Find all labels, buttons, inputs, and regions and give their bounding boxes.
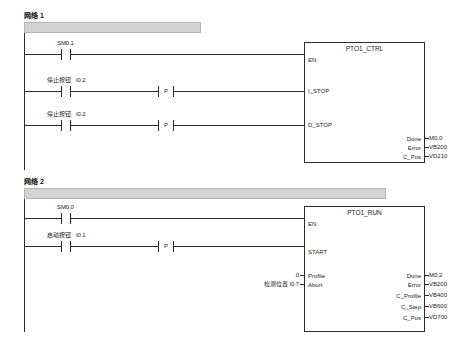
pto1-run-c-profile-operand[interactable]: VB400 xyxy=(429,292,447,299)
rung-1-3-wire-mid xyxy=(71,125,158,126)
rung-2-2-wire-right xyxy=(174,246,304,247)
pto1-run-block-title: PTO1_RUN xyxy=(305,209,424,217)
rung-2-2-wire-mid xyxy=(71,246,158,247)
pto1-ctrl-c-pos-operand[interactable]: VD210 xyxy=(429,153,447,160)
pto1-ctrl-pin-c-pos: C_Pos xyxy=(403,154,421,161)
pto1-run-pin-start: START xyxy=(308,249,327,256)
pto1-ctrl-block-title: PTO1_CTRL xyxy=(305,45,424,53)
pto1-run-profile-operand[interactable]: 0 xyxy=(270,272,299,279)
pto1-run-pin-profile: Profile xyxy=(308,273,325,280)
pto1-run-pin-abort: Abort xyxy=(308,282,322,289)
rung-1-3-contact-symbol: 停止按钮 xyxy=(47,111,71,118)
rung-1-2-contact[interactable] xyxy=(61,86,71,97)
rung-2-2-contact[interactable] xyxy=(61,241,71,252)
rung-2-2-contact-symbol: 启动按钮 xyxy=(47,232,71,239)
lad-editor-canvas: 网络 1 SM0.1 停止按钮 I0.2 P 停止按钮 I0.2 P PTO1_… xyxy=(0,0,453,339)
pto1-run-profile-stub xyxy=(300,275,304,276)
rung-1-3-wire-right xyxy=(174,125,304,126)
rung-2-1-contact-address: SM0.0 xyxy=(57,204,74,211)
rung-1-3-wire-left xyxy=(24,125,61,126)
network-1-title: 网络 1 xyxy=(24,12,44,20)
pto1-run-pin-en: EN xyxy=(308,221,316,228)
rung-1-2-wire-mid xyxy=(71,91,158,92)
pto1-run-pin-c-pos: C_Pos xyxy=(403,315,421,322)
pto1-run-pin-error: Error xyxy=(408,282,421,289)
rung-1-1-contact[interactable] xyxy=(61,49,71,60)
pto1-ctrl-pin-done: Done xyxy=(407,136,421,143)
rung-2-2-positive-edge-label: P xyxy=(158,242,174,251)
rung-2-2-wire-left xyxy=(24,246,61,247)
pto1-run-c-step-operand[interactable]: VB600 xyxy=(429,303,447,310)
rung-1-3-positive-edge-contact[interactable]: P xyxy=(158,120,174,131)
rung-2-2-positive-edge-contact[interactable]: P xyxy=(158,241,174,252)
rung-1-2-positive-edge-label: P xyxy=(158,87,174,96)
network-2-title: 网络 2 xyxy=(24,178,44,186)
pto1-ctrl-error-operand[interactable]: VB200 xyxy=(429,144,447,151)
rung-1-3-contact[interactable] xyxy=(61,120,71,131)
network-2-comment-bar[interactable] xyxy=(24,188,386,199)
pto1-ctrl-pin-en: EN xyxy=(308,57,316,64)
pto1-run-pin-c-profile: C_Profile xyxy=(396,293,421,300)
pto1-ctrl-pin-error: Error xyxy=(408,145,421,152)
rung-1-2-wire-right xyxy=(174,91,304,92)
rung-1-2-contact-symbol: 停止按钮 xyxy=(47,77,71,84)
pto1-run-error-operand[interactable]: VB200 xyxy=(429,281,447,288)
rung-1-3-positive-edge-label: P xyxy=(158,121,174,130)
pto1-run-block[interactable]: PTO1_RUN EN START Profile Abort Done Err… xyxy=(304,206,425,332)
pto1-run-c-pos-operand[interactable]: VD700 xyxy=(429,314,447,321)
pto1-run-abort-operand[interactable]: 检测位置 I0.7 xyxy=(240,281,299,288)
rung-1-1-wire-left xyxy=(24,54,61,55)
rung-2-2-contact-address: I0.1 xyxy=(76,232,86,239)
pto1-run-pin-c-step: C_Step xyxy=(401,304,421,311)
rung-1-2-positive-edge-contact[interactable]: P xyxy=(158,86,174,97)
rung-1-2-wire-left xyxy=(24,91,61,92)
pto1-ctrl-pin-i-stop: I_STOP xyxy=(308,88,329,95)
rung-2-1-contact[interactable] xyxy=(61,213,71,224)
pto1-run-abort-stub xyxy=(300,284,304,285)
pto1-ctrl-pin-d-stop: D_STOP xyxy=(308,122,332,129)
rung-1-1-wire-right xyxy=(71,54,304,55)
rung-1-2-contact-address: I0.2 xyxy=(76,77,86,84)
pto1-run-done-operand[interactable]: M0.2 xyxy=(429,272,442,279)
network-1-comment-bar[interactable] xyxy=(24,22,201,33)
rung-1-3-contact-address: I0.2 xyxy=(76,111,86,118)
pto1-ctrl-block[interactable]: PTO1_CTRL EN I_STOP D_STOP Done Error C_… xyxy=(304,42,425,163)
pto1-ctrl-done-operand[interactable]: M0.0 xyxy=(429,135,442,142)
rung-2-1-wire-right xyxy=(71,218,304,219)
rung-1-1-contact-address: SM0.1 xyxy=(57,40,74,47)
pto1-run-pin-done: Done xyxy=(407,273,421,280)
rung-2-1-wire-left xyxy=(24,218,61,219)
